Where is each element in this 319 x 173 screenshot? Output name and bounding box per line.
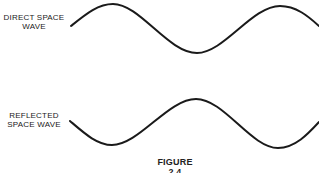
figure-caption: FIGURE 2.4 (150, 157, 200, 173)
reflected-space-wave-curve (70, 99, 319, 148)
direct-space-wave-curve (71, 4, 319, 53)
wave-diagram (0, 0, 319, 173)
